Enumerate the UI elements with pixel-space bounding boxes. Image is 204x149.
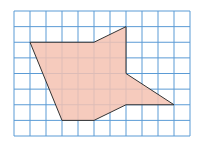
grid-diagram	[0, 0, 204, 149]
